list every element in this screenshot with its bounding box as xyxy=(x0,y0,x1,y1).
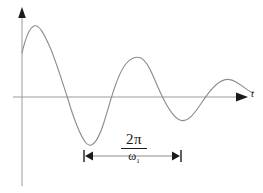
damped-oscillation-figure: t 2π ω1 xyxy=(0,0,263,193)
x-axis-label: t xyxy=(251,88,254,99)
period-numerator: 2π xyxy=(112,132,156,148)
y-axis-arrow-icon xyxy=(18,7,26,18)
period-right-arrow-icon xyxy=(172,152,180,161)
x-axis-arrow-icon xyxy=(236,92,248,101)
period-denominator: ω1 xyxy=(112,149,156,165)
period-left-arrow-icon xyxy=(85,152,93,161)
omega-subscript: 1 xyxy=(136,157,140,165)
damped-sine-curve xyxy=(22,26,253,145)
period-label: 2π ω1 xyxy=(112,132,156,165)
